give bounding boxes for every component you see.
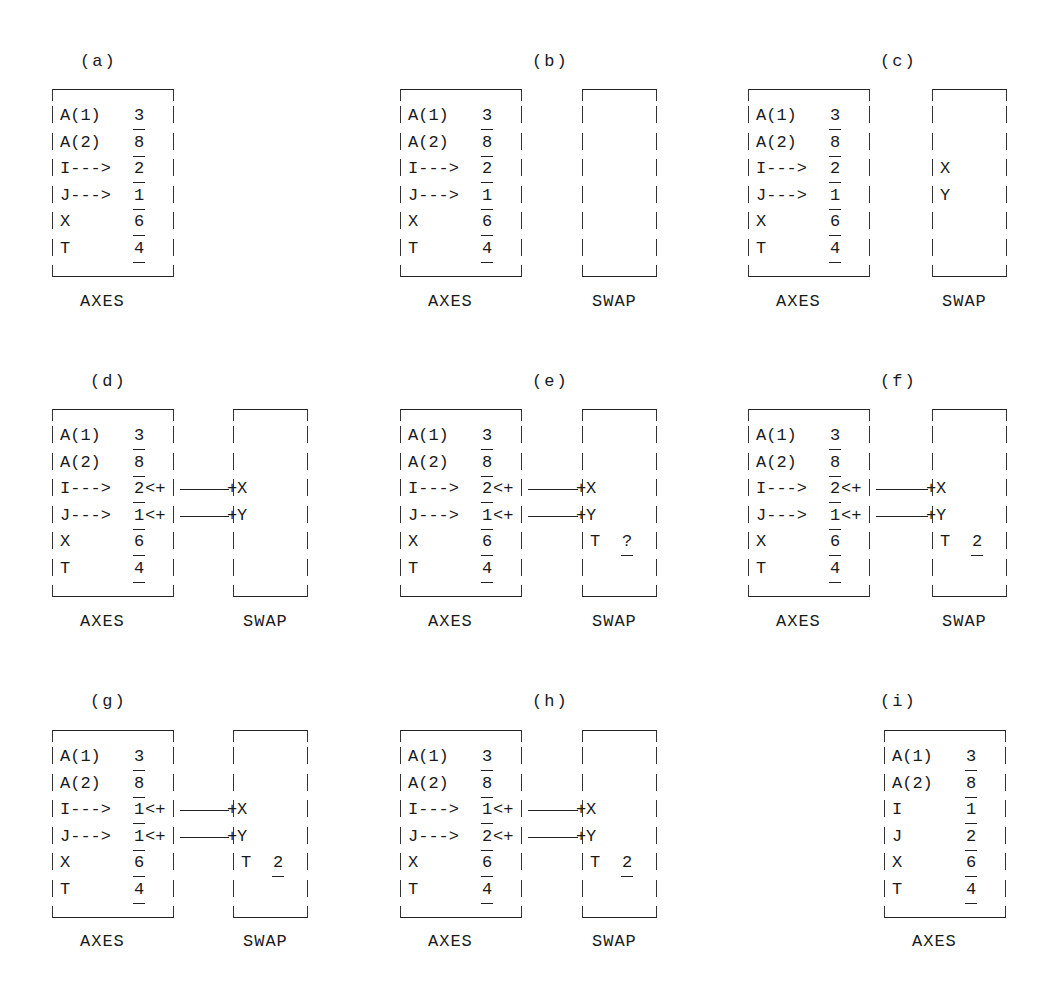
swap-entry-name: X bbox=[237, 800, 247, 820]
swap-entry-value: 2 bbox=[273, 853, 283, 873]
box-right-tick bbox=[521, 212, 522, 229]
box-right-tick bbox=[869, 409, 870, 421]
swap-caption: SWAP bbox=[243, 612, 288, 631]
box-left-tick bbox=[52, 212, 53, 229]
box-left-tick bbox=[233, 559, 234, 576]
swap-entry-name: T bbox=[940, 532, 950, 552]
value-underline bbox=[965, 850, 977, 851]
swap-box bbox=[932, 409, 1007, 597]
box-right-tick bbox=[656, 479, 657, 496]
axes-row-value: 6 bbox=[482, 853, 492, 873]
box-bottom-edge bbox=[52, 596, 174, 597]
axes-row-value: 2 bbox=[482, 479, 492, 499]
value-underline bbox=[481, 770, 493, 771]
box-left-tick bbox=[582, 559, 583, 576]
box-left-tick bbox=[52, 506, 53, 523]
box-left-tick bbox=[233, 906, 234, 918]
box-left-tick bbox=[884, 800, 885, 817]
box-right-tick bbox=[869, 186, 870, 203]
swap-caption: SWAP bbox=[592, 292, 637, 311]
axes-row-name: T bbox=[60, 880, 70, 900]
axes-row-name: X bbox=[60, 853, 70, 873]
axes-row-value: 4 bbox=[830, 239, 840, 259]
link-line bbox=[180, 489, 229, 490]
value-underline bbox=[133, 529, 145, 530]
axes-row-name: A(1) bbox=[60, 426, 101, 446]
swap-entry-name: Y bbox=[936, 506, 946, 526]
axes-row-value: 6 bbox=[134, 853, 144, 873]
box-left-tick bbox=[52, 239, 53, 256]
link-plus: + bbox=[227, 827, 237, 847]
axes-row-value: 1 bbox=[482, 800, 492, 820]
value-text: 4 bbox=[482, 559, 492, 578]
axes-caption: AXES bbox=[80, 612, 125, 631]
box-left-tick bbox=[748, 479, 749, 496]
box-left-tick bbox=[582, 453, 583, 470]
box-left-tick bbox=[400, 747, 401, 764]
box-right-tick bbox=[307, 774, 308, 791]
box-right-tick bbox=[869, 239, 870, 256]
axes-row-value: 3 bbox=[830, 426, 840, 446]
box-right-tick bbox=[1006, 239, 1007, 256]
box-right-tick bbox=[307, 730, 308, 742]
box-left-tick bbox=[748, 426, 749, 443]
swap-box bbox=[582, 409, 657, 597]
axes-caption: AXES bbox=[912, 932, 957, 951]
swap-box bbox=[233, 409, 308, 597]
box-right-tick bbox=[1006, 506, 1007, 523]
box-right-tick bbox=[307, 453, 308, 470]
value-underline bbox=[133, 129, 145, 130]
swap-entry-name: X bbox=[586, 800, 596, 820]
value-text: 2 bbox=[273, 853, 283, 872]
box-right-tick bbox=[656, 800, 657, 817]
box-left-tick bbox=[748, 265, 749, 277]
box-right-tick bbox=[656, 426, 657, 443]
swap-entry-name: Y bbox=[940, 186, 950, 206]
link-arrowhead: <+ bbox=[493, 479, 513, 499]
box-right-tick bbox=[656, 106, 657, 123]
axes-row-value: 8 bbox=[482, 133, 492, 153]
panel-label: (f) bbox=[880, 372, 917, 391]
box-left-tick bbox=[932, 186, 933, 203]
value-underline bbox=[481, 876, 493, 877]
box-right-tick bbox=[173, 585, 174, 597]
box-bottom-edge bbox=[400, 596, 522, 597]
axes-row-value: 6 bbox=[134, 212, 144, 232]
link-line bbox=[528, 837, 578, 838]
box-top-edge bbox=[932, 89, 1007, 90]
value-text: 3 bbox=[830, 106, 840, 125]
value-text: 2 bbox=[134, 479, 144, 498]
box-left-tick bbox=[233, 747, 234, 764]
box-left-tick bbox=[52, 747, 53, 764]
value-underline bbox=[829, 235, 841, 236]
value-text: 3 bbox=[134, 747, 144, 766]
value-text: 8 bbox=[966, 774, 976, 793]
box-right-tick bbox=[656, 506, 657, 523]
value-underline bbox=[481, 502, 493, 503]
value-text: 1 bbox=[482, 186, 492, 205]
link-plus: + bbox=[576, 506, 586, 526]
box-right-tick bbox=[869, 426, 870, 443]
panel-label: (h) bbox=[532, 692, 569, 711]
link-plus: + bbox=[926, 506, 936, 526]
box-left-tick bbox=[932, 239, 933, 256]
box-left-tick bbox=[233, 880, 234, 897]
box-left-tick bbox=[400, 906, 401, 918]
axes-row-value: 3 bbox=[830, 106, 840, 126]
axes-row-value: 3 bbox=[134, 426, 144, 446]
value-underline bbox=[133, 182, 145, 183]
box-right-tick bbox=[656, 730, 657, 742]
value-text: 3 bbox=[482, 747, 492, 766]
value-underline bbox=[133, 156, 145, 157]
box-left-tick bbox=[400, 532, 401, 549]
box-right-tick bbox=[173, 186, 174, 203]
axes-row-value: 1 bbox=[482, 186, 492, 206]
axes-row-value: 4 bbox=[134, 559, 144, 579]
axes-row-name: A(2) bbox=[60, 133, 101, 153]
box-right-tick bbox=[173, 212, 174, 229]
axes-row-name: J bbox=[892, 827, 902, 847]
value-text: 1 bbox=[134, 800, 144, 819]
value-underline bbox=[481, 582, 493, 583]
axes-row-name: A(1) bbox=[60, 747, 101, 767]
box-right-tick bbox=[173, 265, 174, 277]
